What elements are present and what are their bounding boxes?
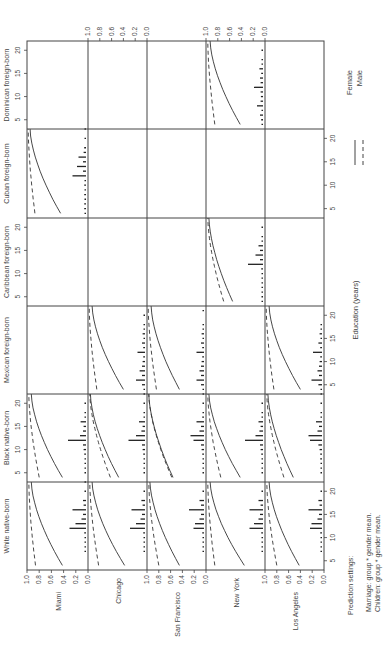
male-line (267, 482, 277, 565)
footnote: Prediction settings: Marriage: group * g… (347, 513, 382, 615)
female-line (150, 482, 180, 565)
education-tick-label: 15 (14, 422, 21, 430)
value-tick-label: 0.0 (143, 27, 150, 36)
education-tick-label: 20 (329, 487, 336, 495)
male-line (149, 482, 159, 565)
female-line (30, 129, 60, 213)
city-label: New York (233, 578, 240, 608)
value-tick-label: 0.4 (237, 27, 244, 36)
female-line (269, 306, 300, 389)
value-tick-label: 0.8 (155, 575, 162, 584)
panel (266, 306, 322, 394)
female-line (92, 482, 125, 565)
education-tick-label: 20 (14, 46, 21, 54)
value-tick-label: 0.0 (261, 27, 268, 36)
panel (148, 306, 204, 394)
education-tick-label: 20 (14, 223, 21, 231)
education-tick-label: 15 (329, 334, 336, 342)
education-tick-label: 5 (329, 206, 336, 210)
education-tick-label: 10 (14, 446, 21, 454)
male-line (29, 394, 39, 477)
value-tick-label: 0.2 (308, 575, 315, 584)
value-tick-label: 0.4 (60, 575, 67, 584)
value-tick-label: 0.2 (131, 27, 138, 36)
panel (208, 482, 263, 565)
value-tick-label: 0.4 (178, 575, 185, 584)
value-tick-label: 0.2 (72, 575, 79, 584)
female-line (31, 482, 62, 565)
value-tick-label: 1.0 (202, 27, 209, 36)
panel (149, 482, 204, 565)
female-line (210, 482, 244, 565)
value-tick-label: 0.2 (249, 27, 256, 36)
city-label: San Francisco (174, 592, 181, 637)
female-line (269, 482, 299, 565)
value-tick-label: 0.4 (119, 27, 126, 36)
value-tick-label: 0.6 (285, 575, 292, 584)
education-tick-label: 15 (14, 246, 21, 254)
panel (267, 482, 322, 565)
axes: 1.01.01.01.01.00.80.80.80.80.80.60.60.60… (14, 27, 336, 584)
female-line (151, 306, 179, 389)
education-tick-label: 5 (329, 559, 336, 563)
education-tick-label: 20 (14, 399, 21, 407)
panel (90, 394, 145, 477)
panel-grid (28, 41, 322, 565)
legend-female-label: Female (345, 70, 354, 95)
value-tick-label: 0.0 (320, 575, 327, 584)
city-label: Miami (55, 592, 62, 611)
panel (29, 482, 86, 565)
female-line (209, 394, 240, 477)
female-line (92, 306, 123, 389)
value-tick-label: 0.8 (214, 27, 221, 36)
panel (267, 394, 322, 477)
female-line (90, 394, 118, 477)
group-label: White native-born (3, 498, 10, 553)
male-line (149, 394, 172, 477)
value-tick-label: 1.0 (84, 27, 91, 36)
female-line (31, 394, 62, 477)
panel (90, 482, 145, 565)
education-tick-label: 10 (14, 93, 21, 101)
education-tick-label: 15 (14, 69, 21, 77)
legend: Female Male (345, 70, 364, 165)
x-axis-title: Education (years) (351, 280, 360, 339)
panel (208, 41, 263, 124)
education-tick-label: 5 (14, 295, 21, 299)
education-tick-label: 10 (329, 181, 336, 189)
education-tick-label: 10 (329, 358, 336, 366)
footnote-line-2: Children: group * gender mean. (374, 514, 382, 612)
education-tick-label: 15 (329, 510, 336, 518)
panel (149, 394, 204, 477)
male-line (208, 482, 215, 565)
value-tick-label: 0.6 (47, 575, 54, 584)
panel (29, 394, 86, 477)
female-line (209, 218, 233, 301)
value-tick-label: 0.8 (35, 575, 42, 584)
group-label: Black native-born (3, 411, 10, 465)
education-tick-label: 5 (329, 383, 336, 387)
female-line (149, 394, 173, 477)
group-label: Caribbean foreign-born (3, 226, 11, 298)
education-tick-label: 10 (329, 534, 336, 542)
male-line (89, 306, 97, 389)
education-tick-label: 5 (14, 471, 21, 475)
panel (208, 218, 263, 301)
education-tick-label: 20 (329, 134, 336, 142)
group-label: Dominican foreign-born (3, 49, 11, 122)
footnote-line-1: Marriage: group * gender mean. (365, 513, 373, 612)
footnote-heading: Prediction settings: (347, 556, 355, 615)
value-tick-label: 0.6 (226, 27, 233, 36)
male-line (266, 306, 274, 389)
male-line (29, 482, 36, 565)
panel (208, 394, 263, 477)
group-label: Cuban foreign-born (3, 143, 11, 203)
value-tick-label: 1.0 (261, 575, 268, 584)
education-tick-label: 20 (329, 311, 336, 319)
education-tick-label: 10 (14, 270, 21, 278)
value-tick-label: 1.0 (143, 575, 150, 584)
labels: Dominican foreign-bornCuban foreign-born… (3, 49, 300, 637)
value-tick-label: 0.6 (167, 575, 174, 584)
group-label: Mexican foreign-born (3, 317, 11, 383)
value-tick-label: 0.0 (84, 575, 91, 584)
